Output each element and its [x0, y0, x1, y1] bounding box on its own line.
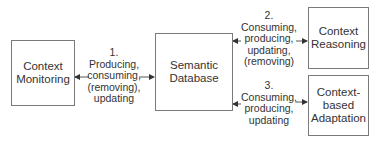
edge-2-label: 2. Consuming, producing, updating, (remo…	[238, 10, 300, 68]
semantic-database-box: Semantic Database	[155, 33, 233, 111]
node-label: Monitoring	[16, 73, 70, 86]
edge-3-label: 3. Consuming, producing, updating	[238, 80, 300, 126]
context-monitoring-box: Context Monitoring	[11, 40, 75, 106]
node-label: Adaptation	[311, 112, 366, 125]
node-label: Database	[169, 72, 218, 85]
context-reasoning-box: Context Reasoning	[308, 7, 369, 69]
node-label: Reasoning	[311, 38, 366, 51]
node-label: Semantic	[169, 59, 218, 72]
node-label: Context	[311, 25, 366, 38]
node-label: Context-	[311, 86, 366, 99]
context-based-adaptation-box: Context- based Adaptation	[308, 75, 369, 136]
edge-1-label: 1. Producing, consuming, (removing), upd…	[86, 47, 142, 105]
node-label: Context	[16, 60, 70, 73]
node-label: based	[311, 99, 366, 112]
